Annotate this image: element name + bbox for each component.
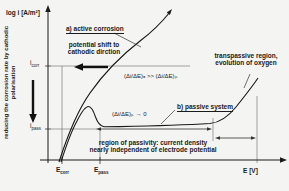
y-tick-ipass: ipass <box>30 122 41 132</box>
cathodic-shift-arrow <box>74 63 108 71</box>
passive-slope-formula: (Δi/ΔE)ₚ → 0 <box>112 111 147 118</box>
side-caption: reducing the corrosion rate by cathodic … <box>3 17 16 149</box>
rate-reduction-down-arrow <box>29 80 37 123</box>
y-tick-icorr: icorr <box>30 59 39 69</box>
active-corrosion-label: a) active corrosion <box>66 25 124 32</box>
slope-comparison-formula: (Δi/ΔE)ₐ >> (Δi/ΔE)ₚ <box>124 73 178 80</box>
side-caption-line2: polarisation <box>9 17 16 149</box>
y-axis-arrowhead <box>45 5 50 12</box>
x-axis-label: E [V] <box>243 167 258 174</box>
passive-system-label: b) passive system <box>177 103 233 110</box>
polarization-curve-figure: reducing the corrosion rate by cathodic … <box>0 0 289 191</box>
x-tick-ecorr: Ecorr <box>56 166 69 176</box>
x-tick-epass: Epass <box>94 166 109 176</box>
x-axis-arrowhead <box>280 157 287 162</box>
passivity-span-arrow <box>96 127 212 131</box>
diagram-canvas <box>0 0 289 191</box>
passivity-region-caption: region of passivity: current density nea… <box>77 139 229 153</box>
side-caption-line1: reducing the corrosion rate by cathodic <box>3 17 10 149</box>
active-curve-arrowhead <box>167 9 172 15</box>
transpassive-label: transpassive region, evolution of oxygen <box>206 52 286 66</box>
potential-shift-label: potential shift to cathodic dirction <box>62 41 126 55</box>
y-axis-label: log i [A/m²] <box>6 9 40 16</box>
